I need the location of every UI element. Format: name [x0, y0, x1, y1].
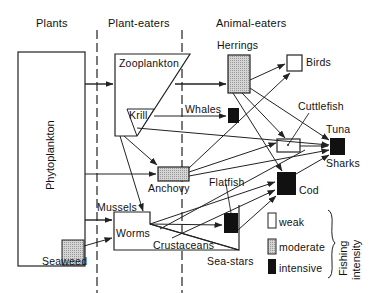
anchovy-box — [158, 167, 189, 181]
legend-brace — [328, 210, 335, 278]
legend-intensive-swatch — [268, 259, 276, 274]
whales-box — [228, 108, 239, 123]
legend-label-moderate: moderate — [279, 242, 325, 253]
label-crustaceans: Crustaceans — [153, 240, 214, 251]
label-sharks: Sharks — [326, 158, 360, 169]
label-seaweed: Seaweed — [42, 256, 87, 267]
flatfish-box — [224, 213, 238, 233]
label-herrings: Herrings — [217, 40, 258, 51]
label-mussels: Mussels — [97, 202, 137, 213]
label-krill: Krill — [129, 110, 148, 121]
legend-label-intensive: intensive — [279, 263, 322, 274]
legend-title-intensity: intensity — [350, 240, 362, 280]
label-sea-stars: Sea-stars — [207, 256, 254, 267]
tuna-sharks-box — [330, 138, 345, 155]
legend-label-weak: weak — [279, 217, 304, 228]
legend-moderate-swatch — [268, 239, 276, 254]
birds-box — [287, 55, 302, 71]
cod-box — [277, 172, 296, 195]
herrings-box — [228, 55, 250, 93]
label-whales: Whales — [185, 104, 221, 115]
label-birds: Birds — [306, 57, 331, 68]
label-cuttlefish: Cuttlefish — [298, 101, 344, 112]
column-header-plant-eaters: Plant-eaters — [108, 18, 170, 29]
column-header-plants: Plants — [36, 18, 68, 29]
column-header-animal-eaters: Animal-eaters — [216, 18, 286, 29]
label-cod: Cod — [299, 185, 319, 196]
legend-weak-swatch — [268, 213, 276, 228]
label-worms: Worms — [116, 228, 150, 239]
label-anchovy: Anchovy — [148, 183, 190, 194]
label-phytoplankton: Phytoplankton — [44, 120, 56, 190]
label-tuna: Tuna — [326, 124, 350, 135]
label-zooplankton: Zooplankton — [119, 58, 179, 69]
legend-title-fishing: Fishing — [337, 241, 349, 276]
label-flatfish: Flatfish — [209, 177, 244, 188]
